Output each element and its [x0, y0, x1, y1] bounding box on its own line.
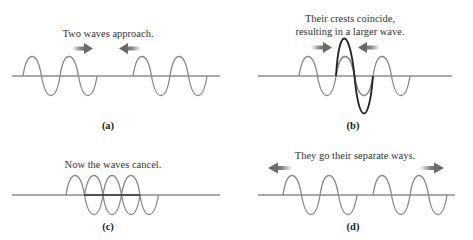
caption-panel-d: They go their separate ways. [290, 149, 420, 162]
caption-panel-b-line1: Their crests coincide, [290, 12, 410, 25]
panel-label-b: (b) [343, 120, 363, 131]
caption-panel-a: Two waves approach. [58, 27, 158, 40]
arrow-left-icon [358, 42, 380, 53]
arrow-left-icon [119, 43, 141, 54]
panel-a [12, 43, 220, 96]
panel-label-a: (a) [98, 120, 118, 131]
panel-b [258, 39, 452, 114]
arrow-right-icon [311, 42, 332, 53]
arrow-right-icon [420, 163, 444, 174]
panel-label-c: (c) [98, 221, 118, 232]
arrow-left-icon [268, 163, 292, 174]
panel-label-d: (d) [343, 221, 363, 232]
panel-c [12, 176, 220, 215]
panel-d [258, 163, 455, 215]
arrow-right-icon [72, 43, 93, 54]
caption-panel-c: Now the waves cancel. [58, 158, 168, 171]
caption-panel-b-line2: resulting in a larger wave. [290, 25, 410, 38]
